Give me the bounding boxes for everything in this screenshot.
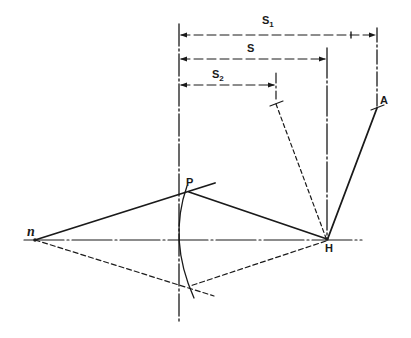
s1-label: S1 [262, 14, 274, 29]
n-label: n [27, 224, 35, 239]
p-label: P [186, 176, 193, 188]
h-lower-dashed-line [190, 241, 326, 286]
s1-arrow-left [180, 33, 187, 38]
s2-arrow-left [180, 83, 187, 88]
n-lower-dashed-line [35, 240, 214, 296]
s2-label: S2 [212, 68, 224, 83]
p-h-line [189, 192, 327, 239]
construction-diagram: S1 S S2 A P H n [0, 0, 411, 338]
s2-h-dashed-line [276, 104, 326, 238]
h-a-line [328, 108, 377, 238]
a-label: A [380, 94, 388, 106]
h-label: H [325, 242, 333, 254]
s-arrow-left [180, 57, 187, 62]
s1-arrow-right [369, 33, 376, 38]
s2-arrow-right [268, 83, 275, 88]
h-point [325, 237, 329, 241]
s-arrow-right [319, 57, 326, 62]
s-label: S [247, 42, 254, 54]
arc-curve [179, 186, 194, 298]
n-p-line [35, 183, 215, 240]
